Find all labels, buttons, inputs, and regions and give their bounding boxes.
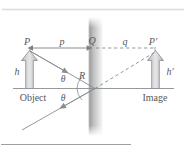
ray-diagram-svg: P p Q q P′ h h′ R θ θ Object Image: [0, 0, 186, 150]
label-object: Object: [20, 92, 47, 103]
label-point-p: P: [23, 36, 30, 47]
label-distance-p: p: [59, 36, 65, 47]
label-point-r: R: [78, 70, 85, 81]
label-theta-lower: θ: [61, 93, 66, 103]
label-image: Image: [143, 92, 169, 103]
label-height-h-prime: h′: [166, 66, 174, 77]
label-point-q: Q: [88, 35, 96, 46]
figure-root: P p Q q P′ h h′ R θ θ Object Image: [0, 0, 186, 150]
image-arrow: [148, 51, 164, 89]
label-theta-upper: θ: [61, 74, 66, 84]
object-arrow: [22, 51, 38, 89]
virtual-ray-dashed: [95, 52, 155, 89]
label-point-p-prime: P′: [148, 36, 158, 47]
label-height-h: h: [15, 66, 20, 77]
label-distance-q: q: [123, 36, 128, 47]
